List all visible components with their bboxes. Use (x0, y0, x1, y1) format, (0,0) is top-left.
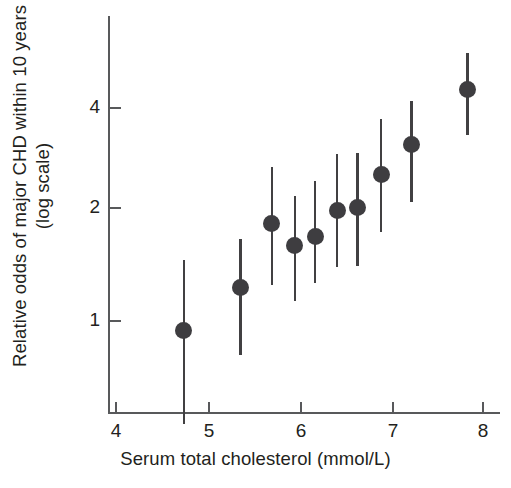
y-tick-label-1: 1 (78, 309, 100, 331)
data-point (307, 228, 324, 245)
x-tick-6 (300, 402, 302, 413)
x-tick-label-7: 7 (372, 420, 414, 442)
x-tick-label-5: 5 (188, 420, 230, 442)
x-axis-line (108, 412, 500, 414)
plot-area: 12445678 (0, 0, 511, 488)
data-point (232, 279, 249, 296)
x-tick-label-4: 4 (95, 420, 137, 442)
data-point (459, 81, 476, 98)
data-point (329, 202, 346, 219)
y-tick-label-2: 2 (78, 196, 100, 218)
x-tick-5 (208, 402, 210, 413)
y-tick-4 (110, 107, 121, 109)
y-axis-line (108, 16, 110, 412)
x-axis-label: Serum total cholesterol (mmol/L) (0, 448, 511, 470)
data-point (373, 166, 390, 183)
y-tick-2 (110, 207, 121, 209)
data-point (403, 136, 420, 153)
y-tick-label-4: 4 (78, 96, 100, 118)
x-tick-4 (115, 402, 117, 413)
error-bar (183, 260, 186, 425)
x-tick-7 (392, 402, 394, 413)
chart-figure: 12445678 Relative odds of major CHD with… (0, 0, 511, 488)
data-point (263, 215, 280, 232)
data-point (349, 199, 366, 216)
y-tick-1 (110, 320, 121, 322)
error-bar (239, 239, 242, 355)
data-point (286, 237, 303, 254)
x-tick-label-6: 6 (280, 420, 322, 442)
data-point (175, 322, 192, 339)
x-tick-label-8: 8 (462, 420, 504, 442)
x-tick-8 (482, 402, 484, 413)
